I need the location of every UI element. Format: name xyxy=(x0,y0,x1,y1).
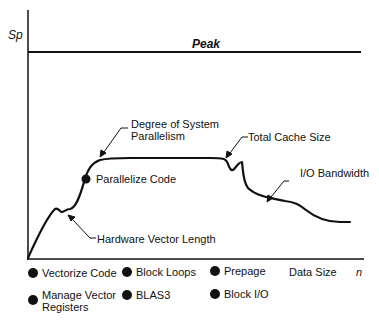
annotation-degree-line1: Degree of System xyxy=(131,118,219,130)
legend-block-loops-label: Block Loops xyxy=(136,266,196,278)
bullet-icon xyxy=(122,290,132,300)
legend-block-io-label: Block I/O xyxy=(224,288,269,300)
legend-block-io: Block I/O xyxy=(210,288,269,300)
annotation-cache: Total Cache Size xyxy=(248,131,331,143)
annotation-io: I/O Bandwidth xyxy=(300,167,369,179)
bullet-icon xyxy=(28,268,38,278)
legend-manage-line1: Manage Vector xyxy=(42,289,116,301)
legend-manage-line2: Registers xyxy=(42,301,88,313)
legend-block-loops: Block Loops xyxy=(122,266,196,278)
legend-vectorize: Vectorize Code xyxy=(28,267,117,279)
annotation-parallelize: Parallelize Code xyxy=(96,173,176,185)
parallelize-marker xyxy=(82,175,91,184)
bullet-icon xyxy=(210,289,220,299)
legend-prepage: Prepage xyxy=(210,265,266,277)
legend-blas3-label: BLAS3 xyxy=(136,289,170,301)
legend-vectorize-label: Vectorize Code xyxy=(42,267,117,279)
peak-label: Peak xyxy=(192,38,220,50)
annotation-degree-line2: Parallelism xyxy=(131,130,185,142)
legend-manage-label: Manage Vector Registers xyxy=(42,289,116,313)
bullet-icon xyxy=(28,295,38,305)
legend-prepage-label: Prepage xyxy=(224,265,266,277)
annotation-hw-vector: Hardware Vector Length xyxy=(97,233,216,245)
x-axis-symbol: n xyxy=(356,266,362,278)
legend-blas3: BLAS3 xyxy=(122,289,170,301)
bullet-icon xyxy=(122,267,132,277)
legend-manage-registers: Manage Vector Registers xyxy=(28,289,116,313)
y-axis-label: Sp xyxy=(8,29,23,41)
bullet-icon xyxy=(210,266,220,276)
x-axis-label: Data Size xyxy=(289,266,337,278)
